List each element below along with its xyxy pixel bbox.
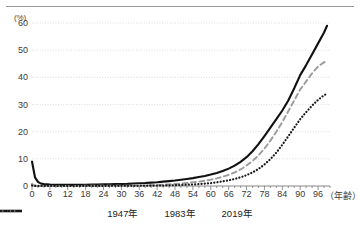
legend-item-1947[interactable]: 1947年 — [107, 206, 138, 220]
legend-item-1983[interactable]: 1983年 — [164, 206, 195, 220]
series-line-1983 — [32, 61, 327, 186]
chart-container: (%) 6050403020100 0612182430364248546066… — [0, 0, 360, 232]
chart-legend: 1947年 1983年 2019年 — [0, 206, 360, 220]
legend-swatch-dotted — [0, 206, 22, 216]
series-line-1947 — [32, 26, 327, 185]
legend-label-1947: 1947年 — [107, 206, 138, 220]
legend-label-1983: 1983年 — [164, 206, 195, 220]
plot-area — [0, 0, 360, 232]
legend-item-2019[interactable]: 2019年 — [222, 206, 253, 220]
legend-label-2019: 2019年 — [222, 206, 253, 220]
series-line-2019 — [32, 94, 327, 186]
